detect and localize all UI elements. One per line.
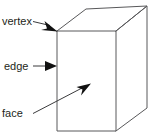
label-vertex: vertex (2, 15, 32, 27)
label-edge: edge (4, 60, 28, 72)
cuboid-svg: vertex edge face (0, 0, 154, 136)
label-face: face (2, 107, 23, 119)
cuboid-diagram: vertex edge face (0, 0, 154, 136)
cuboid-front-face (57, 31, 116, 131)
annotation-edge: edge (4, 60, 57, 72)
vertex-arrow-head (41, 21, 58, 32)
cuboid-shape (57, 6, 147, 131)
edge-arrow-head (45, 61, 57, 71)
annotation-vertex: vertex (2, 15, 58, 32)
